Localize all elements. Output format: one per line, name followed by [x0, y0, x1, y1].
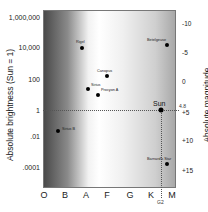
star-label: Sirius	[91, 83, 101, 87]
star-point	[96, 93, 100, 97]
star-label: Canopus	[97, 69, 112, 73]
star-point	[56, 129, 60, 133]
star-label: Rigel	[76, 40, 85, 44]
star-point	[165, 162, 169, 166]
y2-tick-label: -10	[182, 20, 191, 27]
y-tick-label: 10,000	[19, 44, 40, 51]
y2-tick-label: 0	[182, 78, 186, 85]
x-tick-label: B	[62, 190, 68, 200]
y2-tick-label: +5	[182, 109, 189, 116]
star-label: Procyon A	[101, 88, 118, 92]
star-label: Betelgeuse	[147, 38, 166, 42]
y-tick-label: .0001	[22, 164, 40, 171]
g2-annotation: G2	[157, 199, 164, 205]
sun-point	[159, 108, 164, 113]
x-tick-label: O	[40, 190, 47, 200]
plot-area	[43, 10, 176, 188]
y2-tick-label: +10	[182, 137, 193, 144]
x-tick-label: K	[148, 190, 154, 200]
y2-tick-label: -5	[182, 49, 188, 56]
x-tick-label: M	[168, 190, 176, 200]
y-tick-label: 100	[28, 76, 40, 83]
star-point	[86, 87, 90, 91]
x-tick-label: G	[126, 190, 133, 200]
x-tick-label: F	[104, 190, 110, 200]
star-point	[165, 43, 169, 47]
star-label: Sirius B	[62, 127, 75, 131]
y-tick-label: 1,000,000	[9, 14, 40, 21]
magnitude-annotation: 4.8	[179, 103, 186, 109]
g2-reference-line	[161, 110, 162, 198]
y2-axis-label: Absolute magnitude	[202, 35, 208, 175]
star-point	[80, 46, 84, 50]
y-tick-label: 1	[36, 107, 40, 114]
x-tick-label: A	[83, 190, 89, 200]
y2-tick-label: +15	[182, 167, 193, 174]
y-tick-label: .01	[30, 133, 40, 140]
star-point	[105, 74, 109, 78]
sun-label: Sun	[153, 100, 165, 107]
y-axis-label: Absolute brightness (Sun = 1)	[5, 35, 15, 175]
star-label: Barnard's Star	[147, 157, 171, 161]
